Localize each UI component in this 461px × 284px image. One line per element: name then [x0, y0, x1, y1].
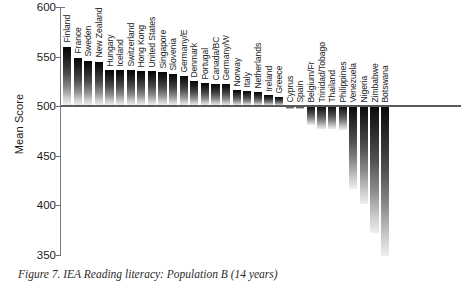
- category-label-slot: Philippines: [338, 0, 349, 106]
- category-label: Nigeria: [360, 75, 369, 102]
- category-label: Cyprus: [285, 75, 294, 102]
- bar-rect: [201, 83, 209, 106]
- category-label: Spain: [296, 80, 305, 102]
- category-label: Italy: [243, 72, 252, 88]
- category-label-slot: Norway: [232, 0, 243, 90]
- baseline-500: [61, 105, 461, 107]
- category-label-slot: United States: [147, 0, 158, 71]
- plot-area: FinlandFranceSwedenNew ZealandHungaryIce…: [61, 0, 461, 284]
- y-tick-label-450: 450: [0, 156, 56, 166]
- bar-rect: [63, 47, 71, 107]
- category-label: Belgium/Fr: [307, 61, 316, 102]
- category-label: New Zealand: [95, 7, 104, 57]
- category-label: Sweden: [84, 26, 93, 57]
- category-label-slot: Venezuela: [348, 0, 359, 106]
- bar-rect: [381, 106, 389, 256]
- category-label-slot: Belgium/Fr: [306, 0, 317, 106]
- bar-rect: [148, 71, 156, 106]
- category-label: Finland: [63, 15, 72, 43]
- bar-rect: [158, 72, 166, 106]
- category-label: Portugal: [201, 48, 210, 80]
- bar-rect: [116, 70, 124, 106]
- category-label: Singapore: [158, 30, 167, 69]
- category-label: Hungary: [105, 34, 114, 66]
- category-label-slot: Switzerland: [126, 0, 137, 70]
- category-label-slot: Germany/E: [179, 0, 190, 76]
- bar-rect: [127, 70, 135, 106]
- category-label-slot: Italy: [242, 0, 253, 91]
- category-label: Germany/E: [179, 29, 188, 72]
- category-label-slot: Ireland: [263, 0, 274, 95]
- bar-rect: [95, 62, 103, 107]
- category-label: Venezuela: [349, 62, 358, 102]
- bar-rect: [339, 106, 347, 130]
- bar-rect: [328, 106, 336, 129]
- y-tick-label-500: 500: [0, 106, 56, 116]
- figure-container: Mean Score 600550500450400350 FinlandFra…: [0, 0, 461, 284]
- bar-rect: [360, 106, 368, 204]
- bar-rect: [180, 76, 188, 106]
- category-label-slot: Slovenia: [168, 0, 179, 74]
- bar-rect: [137, 71, 145, 106]
- category-label: Trinidad/Tobago: [317, 42, 326, 103]
- category-label: Zimbabwe: [370, 63, 379, 102]
- category-label-slot: Iceland: [115, 0, 126, 70]
- category-label: Thailand: [328, 70, 337, 103]
- category-label: Norway: [232, 57, 241, 86]
- bar-rect: [74, 58, 82, 107]
- category-label: Ireland: [264, 65, 273, 91]
- category-label-slot: Hungary: [104, 0, 115, 70]
- category-label-slot: Netherlands: [253, 0, 264, 92]
- category-label-slot: Thailand: [327, 0, 338, 106]
- y-tick-label-400: 400: [0, 205, 56, 215]
- category-label: Greece: [275, 65, 284, 93]
- category-label: Philippines: [338, 61, 347, 102]
- category-label-slot: Greece: [274, 0, 285, 97]
- category-label-slot: New Zealand: [94, 0, 105, 62]
- bar-rect: [286, 106, 294, 109]
- category-label-slot: Portugal: [200, 0, 211, 83]
- bar-rect: [105, 70, 113, 106]
- category-label: Hong Kong: [137, 25, 146, 68]
- category-label-slot: Germany/W: [221, 0, 232, 84]
- category-label-slot: Spain: [295, 0, 306, 106]
- bar-rect: [211, 84, 219, 106]
- category-label: Iceland: [116, 39, 125, 66]
- bar-rect: [84, 61, 92, 107]
- bar-rect: [169, 74, 177, 106]
- category-label-slot: Canada/BC: [210, 0, 221, 84]
- bar-rect: [349, 106, 357, 188]
- category-label-slot: Singapore: [157, 0, 168, 72]
- bar-rect: [243, 91, 251, 106]
- y-tick-label-600: 600: [0, 7, 56, 17]
- figure-caption: Figure 7. IEA Reading literacy: Populati…: [18, 268, 448, 284]
- category-label-slot: Finland: [62, 0, 73, 47]
- category-label-slot: Trinidad/Tobago: [316, 0, 327, 106]
- category-label: Germany/W: [222, 35, 231, 80]
- bar-rect: [190, 81, 198, 106]
- category-label: Slovenia: [169, 38, 178, 71]
- category-label-slot: Botswana: [380, 0, 391, 106]
- category-label: Botswana: [381, 65, 390, 102]
- bar-rect: [222, 84, 230, 106]
- bar-rect: [317, 106, 325, 129]
- category-label-slot: Nigeria: [359, 0, 370, 106]
- category-label: United States: [148, 17, 157, 68]
- category-label-slot: France: [73, 0, 84, 58]
- category-label-slot: Sweden: [83, 0, 94, 61]
- category-label: Netherlands: [254, 43, 263, 89]
- category-label: Canada/BC: [211, 36, 220, 80]
- bar-rect: [233, 90, 241, 106]
- category-label-slot: Denmark: [189, 0, 200, 81]
- category-label: Switzerland: [126, 23, 135, 67]
- category-label-slot: Hong Kong: [136, 0, 147, 71]
- y-tick-label-550: 550: [0, 57, 56, 67]
- category-label: Denmark: [190, 43, 199, 78]
- category-label-slot: Zimbabwe: [369, 0, 380, 106]
- category-label: France: [73, 27, 82, 53]
- y-tick-label-350: 350: [0, 255, 56, 265]
- bar-rect: [296, 106, 304, 109]
- category-label-slot: Cyprus: [285, 0, 296, 106]
- bar-rect: [307, 106, 315, 125]
- bar-rect: [370, 106, 378, 233]
